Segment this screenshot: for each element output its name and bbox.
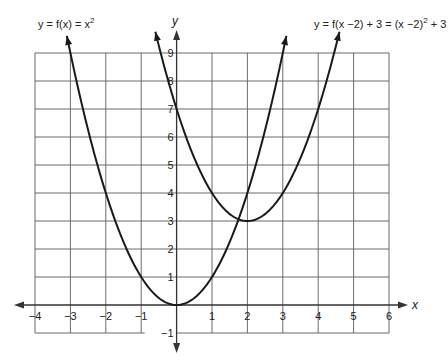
y-tick-label: 4 <box>167 187 173 199</box>
x-tick-label: −3 <box>64 310 77 322</box>
x-tick-label: −4 <box>29 310 42 322</box>
equation-shifted-suffix: + 3 <box>428 18 447 30</box>
y-tick-label: 9 <box>167 47 173 59</box>
x-tick-label: 3 <box>280 310 286 322</box>
x-tick-label: −2 <box>100 310 113 322</box>
y-tick-label: 1 <box>167 271 173 283</box>
y-tick-label: 7 <box>167 103 173 115</box>
equation-label-f: y = f(x) = x2 <box>38 16 95 30</box>
x-tick-label: 1 <box>209 310 215 322</box>
x-axis-label: x <box>411 298 419 312</box>
coordinate-plane-chart: −4−3−2−1123456−1123456789 y x y = f(x) =… <box>0 0 448 363</box>
y-tick-label: 3 <box>167 215 173 227</box>
y-axis-label: y <box>171 14 179 28</box>
x-tick-label: 6 <box>386 310 392 322</box>
equation-f-main: y = f(x) = x <box>38 18 90 30</box>
parabola-curves <box>65 32 340 305</box>
x-tick-label: 5 <box>351 310 357 322</box>
x-tick-label: 2 <box>244 310 250 322</box>
y-tick-label: −1 <box>161 327 174 339</box>
y-tick-label: 5 <box>167 159 173 171</box>
x-axis-right-arrow-icon <box>398 302 408 309</box>
y-tick-label: 2 <box>167 243 173 255</box>
x-axis-left-arrow-icon <box>14 302 24 309</box>
x-tick-label: 4 <box>315 310 321 322</box>
y-axis-up-arrow-icon <box>173 30 180 40</box>
y-axis-down-arrow-icon <box>173 343 180 353</box>
equation-f-exponent: 2 <box>90 16 95 25</box>
x-tick-label: −1 <box>135 310 148 322</box>
equation-shifted-main: y = f(x −2) + 3 = (x −2) <box>314 18 423 30</box>
equation-label-shifted: y = f(x −2) + 3 = (x −2)2 + 3 <box>314 16 446 30</box>
y-tick-label: 6 <box>167 131 173 143</box>
